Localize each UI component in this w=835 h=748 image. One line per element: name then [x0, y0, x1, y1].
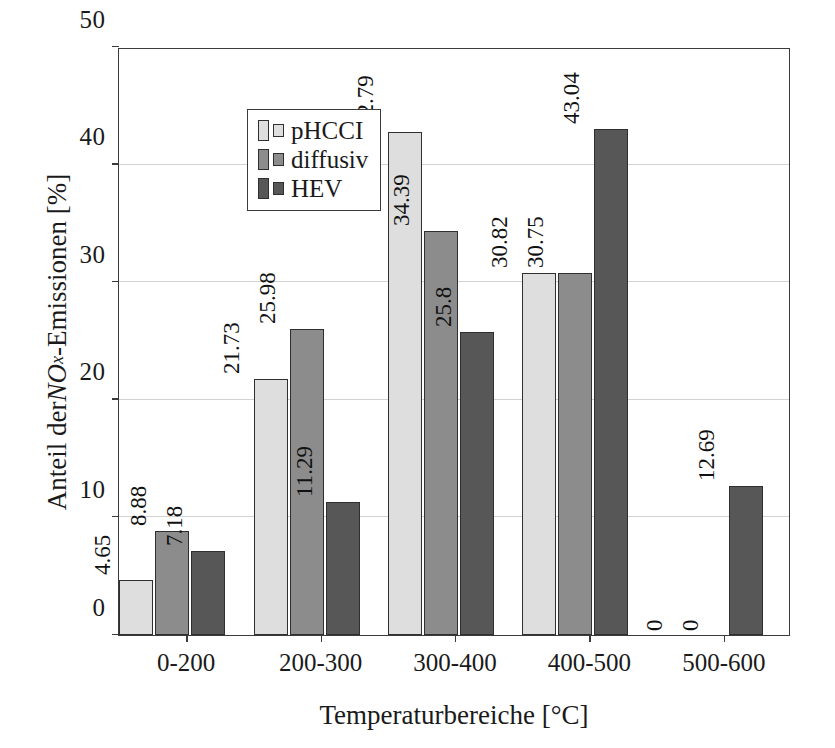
gridline — [119, 164, 789, 165]
bar-value-label: 0 — [678, 620, 704, 632]
bar[interactable]: 4.65 — [119, 580, 153, 635]
y-axis-title: Anteil der NOx-Emissionen [%] — [40, 48, 74, 636]
bar[interactable]: 21.73 — [254, 379, 288, 635]
bar-value-label: 30.75 — [524, 217, 550, 269]
bar-value-label: 25.8 — [431, 286, 457, 326]
y-axis-title-suffix: -Emissionen [%] — [42, 174, 73, 356]
x-axis-tick-label: 400-500 — [548, 649, 631, 677]
bar-value-label: 21.73 — [219, 323, 245, 375]
legend-swatch-small-icon — [273, 182, 284, 195]
bar-value-label: 43.04 — [560, 72, 586, 124]
bar[interactable]: 7.18 — [191, 551, 225, 635]
legend-label: diffusiv — [291, 147, 368, 172]
y-axis-tick-label: 0 — [93, 594, 106, 622]
bar-value-label: 34.39 — [389, 174, 415, 226]
x-axis-tick — [321, 635, 322, 642]
legend-swatch-small-icon — [273, 153, 284, 166]
bar[interactable]: 30.82 — [522, 273, 556, 635]
y-axis-tick — [112, 281, 119, 282]
x-axis-tick — [455, 635, 456, 642]
bar-value-label: 11.29 — [291, 446, 317, 497]
bar-value-label: 12.69 — [694, 429, 720, 481]
bar-value-label: 7.18 — [162, 505, 188, 545]
bar-value-label: 0 — [642, 620, 668, 632]
y-axis-tick-label: 40 — [80, 123, 106, 151]
y-axis-tick-label: 10 — [80, 476, 106, 504]
bar[interactable]: 43.04 — [594, 129, 628, 635]
y-axis-tick-label: 20 — [80, 358, 106, 386]
x-axis-tick — [724, 635, 725, 642]
legend-swatch-small-icon — [273, 124, 284, 137]
y-axis-title-prefix: Anteil der — [42, 402, 73, 511]
x-axis-title: Temperaturbereiche [°C] — [118, 700, 790, 731]
legend-swatch-icon — [258, 149, 269, 170]
y-axis-tick — [112, 46, 119, 47]
bar-chart-figure: Anteil der NOx-Emissionen [%] Temperatur… — [0, 0, 835, 748]
legend: pHCCIdiffusivHEV — [247, 109, 381, 211]
x-axis-tick-label: 0-200 — [157, 649, 215, 677]
bar[interactable]: 30.75 — [558, 273, 592, 635]
bar[interactable]: 12.69 — [729, 486, 763, 635]
x-axis-tick-label: 500-600 — [682, 649, 765, 677]
y-axis-tick-label: 30 — [80, 241, 106, 269]
bar[interactable]: 25.8 — [460, 332, 494, 635]
legend-label: HEV — [291, 176, 342, 201]
x-axis-tick — [589, 635, 590, 642]
bar-value-label: 8.88 — [126, 485, 152, 525]
legend-item-diffusiv[interactable]: diffusiv — [258, 145, 368, 174]
bar-value-label: 25.98 — [255, 273, 281, 325]
bar-value-label: 4.65 — [90, 535, 116, 575]
x-axis-tick-label: 300-400 — [413, 649, 496, 677]
legend-label: pHCCI — [291, 118, 363, 143]
legend-swatch-icon — [258, 178, 269, 199]
y-axis-tick — [112, 163, 119, 164]
legend-item-hev[interactable]: HEV — [258, 174, 368, 203]
y-axis-tick — [112, 634, 119, 635]
y-axis-title-math-sub: x — [47, 356, 68, 364]
y-axis-tick — [112, 516, 119, 517]
bar[interactable]: 8.88 — [155, 531, 189, 635]
y-axis-title-math-base: NO — [42, 364, 73, 402]
legend-item-phcci[interactable]: pHCCI — [258, 116, 368, 145]
x-axis-tick-label: 200-300 — [279, 649, 362, 677]
y-axis-tick — [112, 398, 119, 399]
legend-swatch-icon — [258, 120, 269, 141]
bar-value-label: 30.82 — [488, 216, 514, 268]
y-axis-tick-label: 50 — [80, 6, 106, 34]
x-axis-tick — [186, 635, 187, 642]
plot-area: 01020304050 0-200200-300300-400400-50050… — [118, 48, 790, 636]
bar[interactable]: 11.29 — [326, 502, 360, 635]
